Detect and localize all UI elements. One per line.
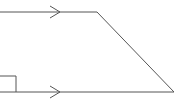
slanted-edge: [97, 12, 174, 92]
trapezoid-diagram: [0, 0, 174, 106]
right-angle-marker-icon: [0, 76, 16, 92]
